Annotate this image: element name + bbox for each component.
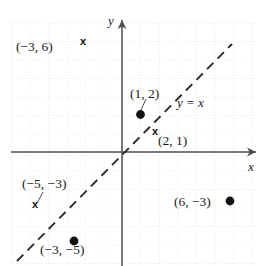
x-marker-neg5-neg3: x	[32, 199, 38, 210]
x-marker-neg3-6: x	[80, 36, 86, 47]
coordinate-plane-figure: x x x (−3, 6) (1, 2) (2, 1) (−5, −3) (6,…	[0, 0, 273, 266]
point-label-neg3-neg5: (−3, −5)	[40, 243, 84, 257]
line-label-y-equals-x: y = x	[177, 96, 204, 109]
x-axis-label: x	[248, 160, 254, 173]
point-label-neg3-6: (−3, 6)	[16, 40, 53, 54]
y-axis-label: y	[108, 14, 114, 27]
point-label-1-2: (1, 2)	[130, 87, 159, 101]
point-label-6-neg3: (6, −3)	[174, 195, 211, 209]
point-label-2-1: (2, 1)	[158, 134, 187, 148]
data-point-1-2	[136, 110, 145, 119]
data-point-6-neg3	[226, 197, 235, 206]
point-label-neg5-neg3: (−5, −3)	[22, 177, 66, 191]
